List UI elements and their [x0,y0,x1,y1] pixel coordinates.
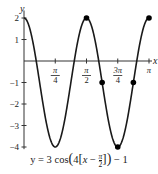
y-tick-label: 2 [15,13,20,23]
data-point [115,144,121,150]
x-tick-numerator: 3π [112,65,122,75]
x-tick-denominator: 4 [116,75,121,85]
equation-text: y = 3 cos(4[x − π2]) − 1 [30,154,128,165]
y-tick-label: 1 [15,35,20,45]
data-point [146,15,152,21]
y-tick-label: −1 [9,78,19,88]
data-point [84,15,90,21]
y-tick-label: −3 [9,121,19,131]
data-point [99,80,105,86]
cosine-graph: 21−1−2−3−4π4π23π4π y x [0,0,158,174]
x-axis-label: x [152,55,158,66]
y-tick-label: −2 [9,99,19,109]
x-tick-numerator: π [84,65,89,75]
data-point [131,80,137,86]
x-tick-label: π [147,65,152,75]
x-tick-denominator: 4 [53,75,58,85]
x-tick-numerator: π [53,65,58,75]
x-tick-denominator: 2 [84,75,88,85]
y-axis-label: y [19,3,25,14]
equation-caption: y = 3 cos(4[x − π2]) − 1 [0,151,158,168]
